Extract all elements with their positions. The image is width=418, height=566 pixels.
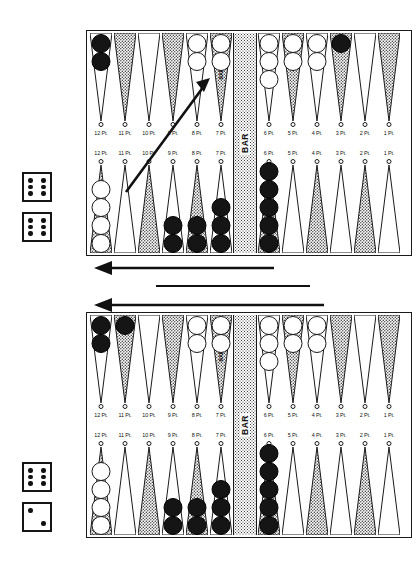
black-checker[interactable] bbox=[116, 316, 135, 335]
point-6pt[interactable]: 6 Pt. bbox=[257, 426, 281, 535]
point-4pt[interactable]: 4 Pt. bbox=[305, 426, 329, 535]
white-checker[interactable] bbox=[92, 498, 111, 517]
checker-stack[interactable] bbox=[92, 316, 111, 352]
die-pip-empty bbox=[35, 191, 39, 195]
white-checker[interactable] bbox=[92, 480, 111, 499]
die-pip bbox=[28, 218, 32, 222]
black-checker[interactable] bbox=[212, 480, 231, 499]
die-pip bbox=[28, 191, 32, 195]
point-1pt[interactable]: 1 Pt. bbox=[377, 426, 401, 535]
point-3pt[interactable]: 3 Pt. bbox=[329, 426, 353, 535]
white-checker[interactable] bbox=[260, 316, 279, 335]
point-5pt[interactable]: 5 Pt. bbox=[281, 426, 305, 535]
black-checker[interactable] bbox=[92, 316, 111, 335]
checker-stack[interactable] bbox=[92, 462, 111, 534]
move-arrow bbox=[86, 30, 412, 256]
die-pip-empty bbox=[28, 521, 32, 525]
point-label: 6 Pt. bbox=[264, 412, 275, 418]
point-2pt[interactable]: 2 Pt. bbox=[353, 426, 377, 535]
checker-stack[interactable] bbox=[188, 316, 207, 352]
point-11pt[interactable]: 11 Pt. bbox=[113, 426, 137, 535]
black-checker[interactable] bbox=[260, 480, 279, 499]
checker-stack[interactable] bbox=[212, 316, 231, 352]
checker-stack[interactable] bbox=[260, 444, 279, 534]
white-checker[interactable] bbox=[308, 334, 327, 353]
white-checker[interactable] bbox=[92, 516, 111, 535]
point-3pt[interactable]: 3 Pt. bbox=[329, 315, 353, 424]
white-checker[interactable] bbox=[188, 316, 207, 335]
checker-stack[interactable] bbox=[308, 316, 327, 352]
checker-stack[interactable] bbox=[212, 480, 231, 534]
black-checker[interactable] bbox=[212, 498, 231, 517]
point-1pt[interactable]: 1 Pt. bbox=[377, 315, 401, 424]
bottom-board-lower-left-quadrant: 12 Pt.11 Pt.10 Pt.9 Pt.8 Pt.7 Pt. bbox=[89, 426, 233, 535]
point-6pt[interactable]: 6 Pt. bbox=[257, 315, 281, 424]
bottom-board-lower-right-quadrant: 6 Pt.5 Pt.4 Pt.3 Pt.2 Pt.1 Pt. bbox=[257, 426, 409, 535]
point-label: 1 Pt. bbox=[384, 412, 395, 418]
black-checker[interactable] bbox=[260, 444, 279, 463]
point-11pt[interactable]: 11 Pt. bbox=[113, 315, 137, 424]
checker-stack[interactable] bbox=[116, 316, 135, 334]
white-checker[interactable] bbox=[212, 316, 231, 335]
black-checker[interactable] bbox=[164, 516, 183, 535]
checker-stack[interactable] bbox=[164, 498, 183, 534]
bottom-board: 12 Pt.11 Pt.10 Pt.9 Pt.8 Pt.BAR7 Pt. 6 P… bbox=[86, 312, 412, 538]
die-pip-empty bbox=[35, 185, 39, 189]
black-checker[interactable] bbox=[260, 498, 279, 517]
point-8pt[interactable]: 8 Pt. bbox=[185, 315, 209, 424]
black-checker[interactable] bbox=[188, 516, 207, 535]
point-7pt[interactable]: BAR7 Pt. bbox=[209, 315, 233, 424]
white-checker[interactable] bbox=[260, 352, 279, 371]
white-checker[interactable] bbox=[284, 334, 303, 353]
white-checker[interactable] bbox=[308, 316, 327, 335]
black-checker[interactable] bbox=[260, 516, 279, 535]
checker-stack[interactable] bbox=[284, 316, 303, 352]
checker-stack[interactable] bbox=[260, 316, 279, 370]
point-label: 8 Pt. bbox=[192, 412, 203, 418]
die-pip-empty bbox=[35, 218, 39, 222]
point-label: 5 Pt. bbox=[288, 432, 299, 438]
black-checker[interactable] bbox=[260, 462, 279, 481]
die-pip-empty bbox=[41, 508, 45, 512]
checker-stack[interactable] bbox=[188, 498, 207, 534]
black-checker[interactable] bbox=[92, 334, 111, 353]
point-9pt[interactable]: 9 Pt. bbox=[161, 315, 185, 424]
white-checker[interactable] bbox=[92, 462, 111, 481]
point-12pt[interactable]: 12 Pt. bbox=[89, 426, 113, 535]
point-marker-icon bbox=[363, 404, 368, 409]
point-12pt[interactable]: 12 Pt. bbox=[89, 315, 113, 424]
point-label: 12 Pt. bbox=[94, 412, 108, 418]
point-label: 3 Pt. bbox=[336, 432, 347, 438]
die-pip bbox=[41, 178, 45, 182]
white-checker[interactable] bbox=[260, 334, 279, 353]
point-label: 9 Pt. bbox=[168, 412, 179, 418]
point-5pt[interactable]: 5 Pt. bbox=[281, 315, 305, 424]
point-marker-icon bbox=[339, 404, 344, 409]
die-pip bbox=[28, 225, 32, 229]
white-checker[interactable] bbox=[188, 334, 207, 353]
point-label: 6 Pt. bbox=[264, 432, 275, 438]
black-checker[interactable] bbox=[212, 516, 231, 535]
point-marker-icon bbox=[291, 441, 296, 446]
point-2pt[interactable]: 2 Pt. bbox=[353, 315, 377, 424]
point-label: 5 Pt. bbox=[288, 412, 299, 418]
die-pip-empty bbox=[35, 515, 39, 519]
bottom-board-upper-right-quadrant: 6 Pt.5 Pt.4 Pt.3 Pt.2 Pt.1 Pt. bbox=[257, 315, 409, 424]
point-10pt[interactable]: 10 Pt. bbox=[137, 426, 161, 535]
die-pip-empty bbox=[35, 178, 39, 182]
point-8pt[interactable]: 8 Pt. bbox=[185, 426, 209, 535]
point-marker-icon bbox=[99, 404, 104, 409]
point-label: 2 Pt. bbox=[360, 412, 371, 418]
point-label: 11 Pt. bbox=[118, 412, 131, 418]
point-10pt[interactable]: 10 Pt. bbox=[137, 315, 161, 424]
point-4pt[interactable]: 4 Pt. bbox=[305, 315, 329, 424]
black-checker[interactable] bbox=[164, 498, 183, 517]
white-checker[interactable] bbox=[212, 334, 231, 353]
point-7pt[interactable]: 7 Pt. bbox=[209, 426, 233, 535]
white-checker[interactable] bbox=[284, 316, 303, 335]
point-9pt[interactable]: 9 Pt. bbox=[161, 426, 185, 535]
point-label: 10 Pt. bbox=[142, 412, 156, 418]
die-pip bbox=[41, 191, 45, 195]
die-pip bbox=[41, 521, 45, 525]
black-checker[interactable] bbox=[188, 498, 207, 517]
